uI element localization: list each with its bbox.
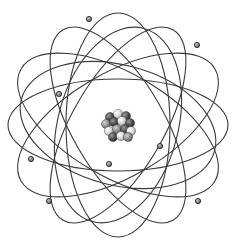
- electron: [56, 91, 61, 96]
- nucleon: [123, 132, 132, 141]
- nucleus: [101, 109, 135, 141]
- electrons: [28, 16, 200, 203]
- electron: [86, 16, 91, 21]
- atom-diagram: Atom model: [0, 0, 236, 248]
- nucleon: [108, 132, 117, 141]
- electron: [106, 161, 111, 166]
- electron: [157, 143, 162, 148]
- electron: [195, 198, 200, 203]
- electron: [194, 42, 199, 47]
- atom-illustration: [0, 0, 236, 248]
- electron: [28, 156, 33, 161]
- electron: [46, 198, 51, 203]
